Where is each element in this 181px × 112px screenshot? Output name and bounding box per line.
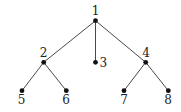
edge-2-5: [22, 62, 44, 90]
node-label-2: 2: [40, 46, 48, 60]
node-3: [93, 60, 98, 65]
node-label-4: 4: [142, 46, 150, 60]
tree-diagram: 12345678: [0, 0, 181, 112]
node-2: [41, 60, 46, 65]
edge-2-6: [44, 62, 67, 90]
edge-4-7: [124, 62, 146, 90]
node-label-8: 8: [164, 93, 172, 107]
node-label-1: 1: [92, 4, 100, 18]
edge-4-8: [146, 62, 169, 90]
node-label-3: 3: [100, 56, 108, 70]
node-label-5: 5: [18, 93, 26, 107]
node-1: [93, 18, 98, 23]
node-label-6: 6: [62, 93, 70, 107]
node-label-7: 7: [120, 93, 128, 107]
edge-1-2: [44, 21, 96, 63]
node-4: [143, 60, 148, 65]
